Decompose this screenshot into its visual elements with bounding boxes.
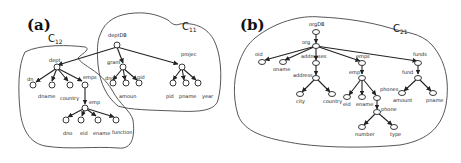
label-emps: emps (356, 53, 370, 60)
label-number: number (355, 131, 375, 137)
label-grant-pid: pid (137, 74, 145, 81)
node-address (313, 76, 320, 81)
panel-b: (b) C21 (234, 16, 447, 147)
node-phone (374, 110, 381, 115)
node-number (359, 125, 366, 130)
label-funds: funds (413, 51, 427, 57)
label-dn: dn (27, 76, 33, 82)
label-emp: emp (89, 99, 100, 106)
label-address: address (293, 72, 313, 78)
label-emp: emp (349, 69, 360, 76)
node-phones (374, 96, 381, 101)
node-orgdb (313, 30, 320, 35)
label-country: country (323, 98, 342, 105)
label-pname: pname (426, 97, 443, 104)
node-funds (415, 61, 422, 66)
label-ename: ename (356, 101, 373, 107)
label-oid: oid (255, 51, 263, 57)
label-deptdb: deptDB (108, 32, 127, 39)
label-country: country (60, 95, 79, 102)
label-year: year (202, 93, 214, 100)
node-proj-pid (170, 80, 176, 86)
cluster-c12-label: C12 (48, 33, 63, 45)
panel-a-label: (a) (27, 16, 51, 34)
label-function: function (112, 129, 132, 135)
label-ename: ename (93, 130, 110, 136)
node-grant (120, 64, 126, 70)
label-city: city (296, 98, 305, 105)
panel-b-label: (b) (240, 16, 265, 34)
label-project: projec (181, 51, 197, 58)
edges-b (265, 34, 431, 125)
node-pname (183, 80, 189, 86)
node-eid (78, 117, 84, 123)
node-amount (399, 91, 406, 96)
node-dno (63, 117, 69, 123)
node-emps (82, 82, 88, 88)
node-fund (415, 76, 422, 81)
node-oname (280, 60, 287, 65)
label-oname: oname (273, 66, 290, 72)
label-emps: emps (83, 74, 97, 81)
label-amount: amount (393, 97, 412, 103)
node-city (297, 92, 304, 97)
node-addresses (313, 61, 320, 66)
label-orgdb: orgDB (309, 21, 325, 28)
node-type (391, 125, 398, 130)
cluster-c21-boundary (234, 17, 447, 147)
label-phones: phones (380, 86, 399, 93)
label-phone: phone (381, 106, 397, 113)
label-proj-pid: pid (166, 93, 174, 100)
node-amount (123, 80, 129, 86)
label-dept: dept (49, 57, 60, 64)
label-dno: dno (63, 130, 72, 136)
node-ename (359, 95, 366, 100)
node-pname (430, 91, 437, 96)
node-year (195, 80, 201, 86)
node-dname (49, 82, 55, 88)
node-grant-pid (136, 80, 142, 86)
node-deptdb (114, 42, 120, 48)
node-ename (95, 117, 101, 123)
label-dname: dname (38, 93, 55, 99)
label-eid: eid (80, 130, 88, 136)
panel-a: (a) C12 C11 (19, 13, 221, 148)
node-country (67, 82, 73, 88)
label-pname: pname (179, 93, 196, 100)
node-oid (259, 60, 266, 65)
node-org (313, 44, 320, 49)
label-grant: grant (107, 59, 120, 66)
node-project (179, 64, 185, 70)
node-function (113, 117, 119, 123)
label-type: type (390, 131, 401, 138)
node-emps (359, 61, 366, 66)
cluster-c11-label: C11 (182, 21, 197, 33)
cluster-c21-label: C21 (393, 23, 408, 35)
node-emp (359, 76, 366, 81)
nodes-b (259, 30, 437, 130)
node-emp (82, 105, 88, 111)
label-eid: eid (343, 101, 351, 107)
label-org: org (302, 39, 310, 46)
label-amount: amoun (119, 93, 136, 99)
node-country (329, 92, 336, 97)
node-dn (30, 82, 36, 88)
node-eid (344, 95, 351, 100)
label-grant-dno: dno (105, 75, 114, 81)
label-fund: fund (402, 69, 413, 75)
label-addresses: addresses (301, 53, 327, 59)
schema-diagram: (a) C12 C11 (0, 0, 461, 163)
node-dept (54, 64, 60, 70)
